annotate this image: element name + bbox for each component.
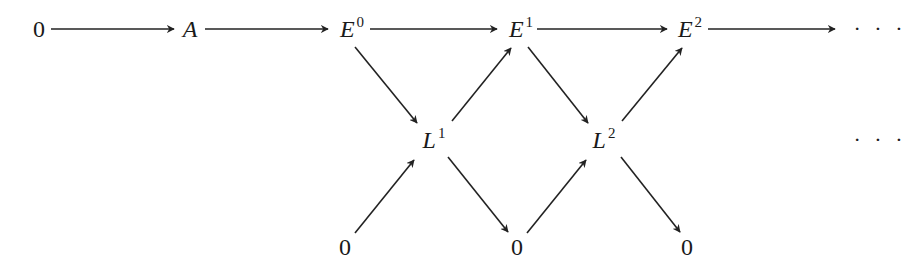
arrow-layer (0, 0, 909, 263)
ellipsis-middle: · · · (854, 129, 907, 151)
arrow-E^0-to-L^1 (355, 47, 417, 123)
arrow-E^1-to-L^2 (528, 47, 588, 123)
arrow-L^2-to-E^2 (622, 48, 682, 121)
node-E0: E0 (340, 17, 364, 41)
arrow-L^1-to-0 (448, 157, 508, 232)
node-zero-bottom-2: 0 (511, 235, 523, 259)
node-E2: E2 (678, 17, 702, 41)
node-A: A (183, 17, 198, 41)
arrow-0-to-L^2 (527, 160, 586, 233)
arrow-L^1-to-E^1 (452, 48, 511, 121)
diagram-canvas: 0 A E0 E1 E2 · · · L1 L2 · · · 0 0 0 (0, 0, 909, 263)
node-zero-left: 0 (33, 17, 45, 41)
node-L2: L2 (593, 128, 616, 152)
node-L1: L1 (423, 128, 446, 152)
node-zero-bottom-1: 0 (339, 235, 351, 259)
arrow-L^2-to-0 (621, 157, 680, 232)
arrow-0-to-L^1 (355, 160, 414, 233)
ellipsis-top: · · · (854, 18, 907, 40)
node-zero-bottom-3: 0 (681, 235, 693, 259)
node-E1: E1 (509, 17, 533, 41)
